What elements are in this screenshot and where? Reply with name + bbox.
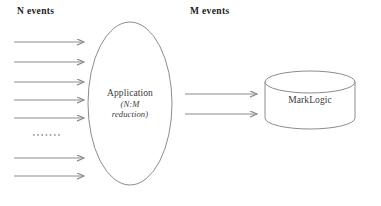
input-arrows-group	[14, 42, 84, 176]
datastore-node-shape	[265, 71, 355, 129]
output-arrows-group	[185, 94, 257, 114]
diagram-root: N events M events Application (N:M reduc…	[0, 0, 381, 206]
application-node-shape	[88, 22, 172, 185]
diagram-canvas	[0, 0, 381, 206]
